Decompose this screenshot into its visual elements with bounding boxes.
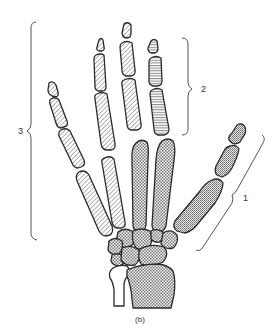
middle-phalanx-2 (149, 57, 162, 87)
digit-1-thumb (174, 124, 246, 233)
metacarpal-1 (174, 179, 223, 233)
label-2: 2 (201, 84, 206, 94)
brace-group-2: 2 (182, 38, 206, 135)
triquetrum (108, 239, 123, 255)
distal-phalanx-2 (148, 40, 158, 54)
distal-phalanx-1 (229, 124, 246, 144)
proximal-phalanx-4 (95, 93, 115, 151)
digit-3-phalanges (120, 23, 141, 130)
distal-phalanx-5 (48, 82, 58, 97)
proximal-phalanx-2 (150, 89, 169, 136)
trapezium (161, 231, 178, 249)
label-3: 3 (18, 126, 23, 136)
middle-phalanx-5 (50, 98, 68, 128)
ulna (109, 265, 129, 306)
distal-phalanx-3 (122, 23, 131, 38)
middle-phalanx-3 (120, 42, 135, 77)
middle-phalanx-4 (94, 54, 106, 91)
label-1: 1 (243, 193, 248, 203)
proximal-phalanx-1 (215, 145, 239, 177)
metacarpal-2 (152, 139, 175, 232)
distal-phalanx-4 (97, 39, 105, 52)
radius (127, 264, 175, 308)
metacarpals-2-3 (132, 139, 175, 232)
lunate (121, 246, 140, 265)
digit-2-phalanges (148, 40, 169, 136)
proximal-phalanx-5 (59, 129, 85, 168)
proximal-phalanx-3 (122, 79, 141, 131)
brace-group-3: 3 (18, 22, 37, 240)
figure-caption: (b) (135, 315, 145, 324)
carpal-bones (108, 229, 178, 266)
scaphoid (139, 245, 167, 265)
metacarpal-3 (132, 140, 149, 232)
hand-skeleton-diagram: 3 2 1 (0, 0, 280, 334)
